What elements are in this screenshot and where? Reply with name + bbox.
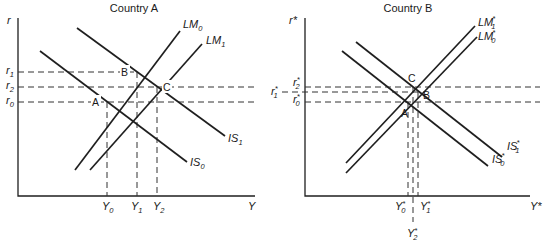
r1-star-label: r*1	[271, 84, 279, 100]
y2-label: Y2	[153, 200, 165, 215]
lm0-curve	[75, 31, 180, 170]
y0-star-label: Y*0	[395, 199, 406, 215]
y-axis-label: r*	[289, 14, 298, 26]
is0-star-label: IS*0	[492, 151, 505, 168]
y0-label: Y0	[102, 200, 114, 215]
point-a-label: A	[92, 96, 99, 108]
is-lm-diagram: Country A r Y IS0 IS1 LM0 LM1 r1 r2 r0 Y…	[0, 0, 547, 249]
panel-country-a: Country A r Y IS0 IS1 LM0 LM1 r1 r2 r0 Y…	[6, 2, 256, 215]
is0-curve	[40, 51, 187, 162]
lm1-label: LM1	[206, 34, 225, 49]
y1-label: Y1	[131, 200, 143, 215]
lm0-star-curve	[346, 37, 477, 173]
is1-label: IS1	[228, 132, 243, 147]
is1-star-label: IS*1	[507, 138, 520, 155]
x-axis-label: Y	[248, 200, 256, 212]
panel-country-b: Country B r* Y* IS*0 IS*1 LM*1 LM*0 r*2 …	[271, 2, 542, 242]
is1-curve	[77, 28, 225, 136]
lm0-star-label: LM*0	[478, 28, 496, 45]
r1-label: r1	[6, 64, 14, 79]
point-a-label: A	[401, 107, 408, 119]
r2-label: r2	[6, 79, 15, 94]
point-b-label: B	[121, 66, 128, 78]
point-c-label: C	[408, 72, 416, 84]
x-axis-label: Y*	[530, 200, 542, 212]
r2-star-label: r*2	[293, 75, 301, 91]
lm1-star-curve	[346, 26, 475, 163]
is0-star-curve	[342, 51, 488, 166]
point-b-label: B	[423, 89, 430, 101]
point-c-label: C	[163, 81, 171, 93]
y2-star-label: Y*2	[407, 226, 418, 242]
y1-star-label: Y*1	[420, 199, 431, 215]
panel-title: Country B	[384, 2, 433, 14]
is0-label: IS0	[190, 156, 205, 171]
y-axis-label: r	[7, 14, 12, 26]
r0-star-label: r*0	[293, 92, 301, 108]
panel-title: Country A	[110, 2, 159, 14]
r0-label: r0	[6, 94, 15, 109]
lm0-label: LM0	[183, 18, 203, 33]
